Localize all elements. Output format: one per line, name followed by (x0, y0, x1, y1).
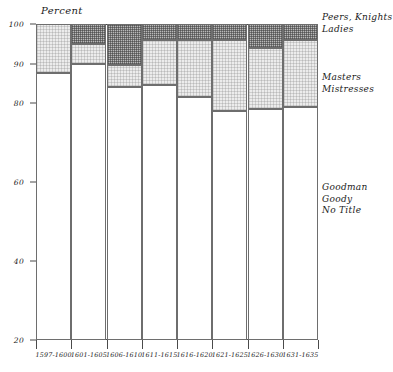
legend-peers-line2: Ladies (322, 24, 354, 34)
y-axis-title: Percent (41, 5, 83, 16)
bar-segment-masters (283, 40, 318, 107)
bar-segment-goodman (107, 87, 142, 340)
y-axis-tick-label: 60 (2, 178, 26, 187)
x-axis-tick-label: 1597-1600 (35, 351, 72, 359)
bar-segment-peers (142, 24, 177, 40)
bar-segment-masters (248, 48, 283, 109)
x-axis-tick-mark (107, 340, 108, 349)
x-axis-tick-label: 1631-1635 (282, 351, 319, 359)
bar-stack[interactable] (107, 24, 142, 340)
bar-segment-peers (248, 24, 283, 48)
bar-stack[interactable] (248, 24, 283, 340)
bar-segment-peers (71, 24, 106, 44)
bar-segment-goodman (36, 73, 71, 340)
legend-peers-line1: Peers, Knights (322, 12, 392, 22)
bar-segment-goodman (142, 85, 177, 340)
bar-segment-goodman (71, 64, 106, 341)
legend-goodman-line3: No Title (322, 205, 361, 215)
bar-stack[interactable] (71, 24, 106, 340)
bar-stack[interactable] (283, 24, 318, 340)
y-axis-tick-label: 40 (2, 257, 26, 266)
bar-segment-masters (142, 40, 177, 85)
x-axis-tick-label: 1601-1605 (71, 351, 108, 359)
x-axis-tick-mark (177, 340, 178, 349)
x-axis-tick-label: 1616-1620 (176, 351, 213, 359)
bar-group (36, 24, 318, 340)
x-axis-tick-label: 1621-1625 (212, 351, 249, 359)
legend-masters-mistresses: Masters Mistresses (322, 72, 374, 95)
bar-segment-masters (177, 40, 212, 97)
x-axis-tick-mark (248, 340, 249, 349)
bar-segment-masters (71, 44, 106, 64)
bar-segment-masters (36, 24, 71, 73)
bar-segment-peers (177, 24, 212, 40)
y-axis-tick-label: 100 (2, 20, 26, 29)
legend-goodman-line1: Goodman (322, 182, 368, 192)
x-axis-tick-mark (212, 340, 213, 349)
legend-masters-line1: Masters (322, 72, 361, 82)
legend-masters-line2: Mistresses (322, 84, 374, 94)
legend-goodman-goody: Goodman Goody No Title (322, 182, 368, 217)
bar-stack[interactable] (212, 24, 247, 340)
legend-goodman-line2: Goody (322, 194, 352, 204)
x-axis-tick-mark (36, 340, 37, 349)
x-axis-tick-mark (71, 340, 72, 349)
bar-segment-goodman (283, 107, 318, 340)
bar-stack[interactable] (36, 24, 71, 340)
bar-segment-goodman (212, 111, 247, 340)
bar-segment-goodman (177, 97, 212, 340)
bar-segment-peers (212, 24, 247, 40)
bar-segment-peers (107, 24, 142, 65)
bar-segment-masters (212, 40, 247, 111)
x-axis-tick-label: 1606-1610 (106, 351, 143, 359)
chart-container: Percent 1009080604020 1597-16001601-1605… (0, 0, 393, 372)
bar-segment-goodman (248, 109, 283, 340)
bar-stack[interactable] (142, 24, 177, 340)
x-axis-tick-mark (142, 340, 143, 349)
x-axis-tick-mark (283, 340, 284, 349)
x-axis-tick-mark (318, 340, 319, 349)
y-axis-tick-label: 80 (2, 99, 26, 108)
y-axis-tick-label: 90 (2, 59, 26, 68)
x-axis-tick-label: 1611-1615 (141, 351, 178, 359)
bar-segment-peers (283, 24, 318, 40)
bar-segment-masters (107, 65, 142, 87)
x-axis-tick-label: 1626-1630 (247, 351, 284, 359)
bar-stack[interactable] (177, 24, 212, 340)
legend-peers-knights: Peers, Knights Ladies (322, 12, 392, 35)
y-axis-tick-label: 20 (2, 336, 26, 345)
